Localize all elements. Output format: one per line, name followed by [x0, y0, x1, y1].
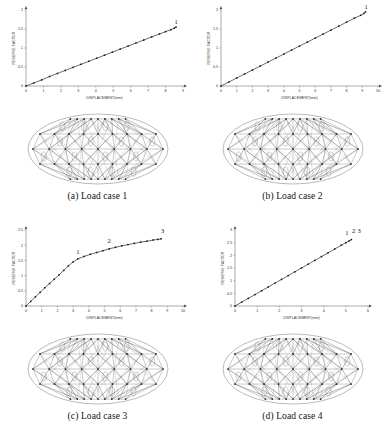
svg-text:0: 0 — [21, 84, 23, 88]
svg-text:8: 8 — [165, 89, 167, 93]
caption-c: (c) Load case 3 — [0, 411, 195, 421]
svg-text:3: 3 — [267, 89, 269, 93]
svg-text:6: 6 — [314, 89, 316, 93]
mesh-a — [0, 108, 195, 190]
svg-text:1: 1 — [21, 274, 23, 278]
svg-text:9: 9 — [361, 89, 363, 93]
elliptical-lattice-icon — [218, 330, 368, 408]
svg-text:1: 1 — [345, 229, 348, 236]
svg-text:2: 2 — [56, 309, 58, 313]
svg-text:0: 0 — [220, 89, 222, 93]
plot-b-svg: 01234567891000.511.52DISPLACEMENT(mm)RES… — [195, 0, 390, 108]
svg-text:0: 0 — [230, 304, 232, 308]
svg-text:6: 6 — [130, 89, 132, 93]
svg-text:1: 1 — [365, 3, 368, 10]
svg-text:1: 1 — [41, 309, 43, 313]
svg-text:7: 7 — [330, 89, 332, 93]
plot-c-svg: 01234567891000.511.522.5DISPLACEMENT(mm)… — [0, 220, 195, 328]
svg-text:0: 0 — [25, 89, 27, 93]
svg-text:3: 3 — [77, 89, 79, 93]
svg-text:2: 2 — [278, 309, 280, 313]
svg-text:0: 0 — [234, 309, 236, 313]
svg-text:RESERVE FACTOR: RESERVE FACTOR — [221, 251, 225, 284]
svg-text:DISPLACEMENT(mm): DISPLACEMENT(mm) — [281, 96, 318, 100]
mesh-b — [195, 108, 390, 190]
svg-text:3: 3 — [301, 309, 303, 313]
svg-text:0: 0 — [21, 304, 23, 308]
mesh-c — [0, 328, 195, 410]
svg-text:1: 1 — [21, 46, 23, 50]
svg-text:3: 3 — [230, 228, 232, 232]
panel-d: 012345600.511.522.53DISPLACEMENT(mm)RESE… — [195, 220, 390, 441]
svg-text:5: 5 — [299, 89, 301, 93]
svg-text:2: 2 — [352, 227, 355, 234]
svg-text:9: 9 — [166, 309, 168, 313]
svg-text:DISPLACEMENT(mm): DISPLACEMENT(mm) — [283, 316, 320, 320]
elliptical-lattice-icon — [23, 330, 173, 408]
panel-b: 01234567891000.511.52DISPLACEMENT(mm)RES… — [195, 0, 390, 220]
svg-text:1.5: 1.5 — [18, 259, 23, 263]
mesh-d — [195, 328, 390, 410]
svg-text:2: 2 — [21, 244, 23, 248]
svg-text:DISPLACEMENT(mm): DISPLACEMENT(mm) — [86, 316, 123, 320]
caption-a: (a) Load case 1 — [0, 191, 195, 201]
svg-text:1: 1 — [76, 248, 79, 255]
svg-text:DISPLACEMENT(mm): DISPLACEMENT(mm) — [86, 96, 123, 100]
svg-text:1: 1 — [230, 279, 232, 283]
svg-text:1: 1 — [236, 89, 238, 93]
figure-grid: 012345678900.511.52DISPLACEMENT(mm)RESER… — [0, 0, 390, 441]
svg-text:0.5: 0.5 — [227, 292, 232, 296]
caption-d: (d) Load case 4 — [195, 411, 390, 421]
svg-text:2: 2 — [251, 89, 253, 93]
svg-text:3: 3 — [358, 227, 361, 234]
svg-text:4: 4 — [323, 309, 325, 313]
svg-text:4: 4 — [283, 89, 285, 93]
svg-text:4: 4 — [95, 89, 97, 93]
caption-b: (b) Load case 2 — [195, 191, 390, 201]
svg-text:2: 2 — [21, 8, 23, 12]
plot-a-svg: 012345678900.511.52DISPLACEMENT(mm)RESER… — [0, 0, 195, 108]
svg-text:3: 3 — [72, 309, 74, 313]
svg-text:0.5: 0.5 — [18, 65, 23, 69]
svg-text:6: 6 — [119, 309, 121, 313]
panel-a: 012345678900.511.52DISPLACEMENT(mm)RESER… — [0, 0, 195, 220]
svg-text:0.5: 0.5 — [18, 289, 23, 293]
svg-text:2: 2 — [230, 254, 232, 258]
svg-text:1: 1 — [174, 18, 177, 25]
svg-text:10: 10 — [181, 309, 185, 313]
svg-text:1.5: 1.5 — [227, 266, 232, 270]
svg-text:4: 4 — [88, 309, 90, 313]
svg-text:2.5: 2.5 — [227, 241, 232, 245]
plot-d: 012345600.511.522.53DISPLACEMENT(mm)RESE… — [195, 220, 390, 328]
svg-text:8: 8 — [151, 309, 153, 313]
svg-text:1.5: 1.5 — [18, 27, 23, 31]
svg-text:1.5: 1.5 — [213, 27, 218, 31]
svg-text:2: 2 — [108, 237, 111, 244]
svg-text:6: 6 — [367, 309, 369, 313]
svg-text:7: 7 — [147, 89, 149, 93]
plot-d-svg: 012345600.511.522.53DISPLACEMENT(mm)RESE… — [195, 220, 390, 328]
elliptical-lattice-icon — [23, 110, 173, 188]
svg-text:RESERVE FACTOR: RESERVE FACTOR — [207, 31, 211, 64]
svg-text:2: 2 — [216, 8, 218, 12]
plot-a: 012345678900.511.52DISPLACEMENT(mm)RESER… — [0, 0, 195, 108]
svg-text:0: 0 — [216, 84, 218, 88]
elliptical-lattice-icon — [218, 110, 368, 188]
svg-text:7: 7 — [135, 309, 137, 313]
plot-b: 01234567891000.511.52DISPLACEMENT(mm)RES… — [195, 0, 390, 108]
svg-text:1: 1 — [216, 46, 218, 50]
svg-text:3: 3 — [161, 227, 164, 234]
svg-text:8: 8 — [346, 89, 348, 93]
svg-text:0: 0 — [25, 309, 27, 313]
svg-text:2: 2 — [60, 89, 62, 93]
svg-text:5: 5 — [104, 309, 106, 313]
plot-c: 01234567891000.511.522.5DISPLACEMENT(mm)… — [0, 220, 195, 328]
panel-c: 01234567891000.511.522.5DISPLACEMENT(mm)… — [0, 220, 195, 441]
svg-text:RESERVE FACTOR: RESERVE FACTOR — [12, 251, 16, 284]
svg-text:5: 5 — [112, 89, 114, 93]
svg-text:10: 10 — [376, 89, 380, 93]
svg-text:2.5: 2.5 — [18, 228, 23, 232]
svg-text:RESERVE FACTOR: RESERVE FACTOR — [12, 31, 16, 64]
svg-text:5: 5 — [345, 309, 347, 313]
svg-text:9: 9 — [182, 89, 184, 93]
